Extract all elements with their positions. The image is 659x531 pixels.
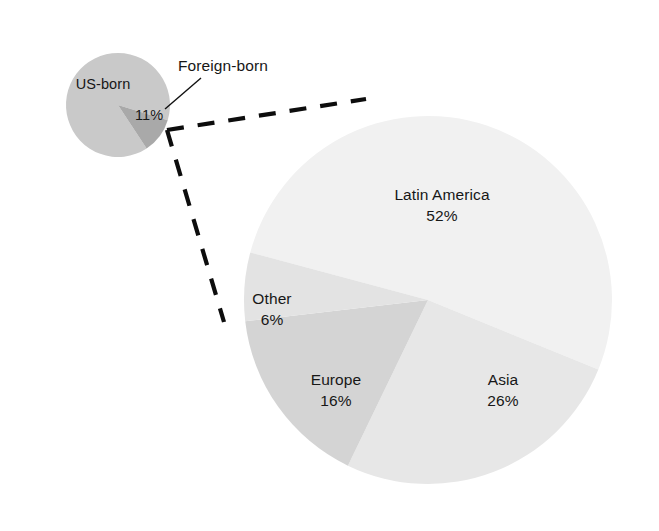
large-pie-label-latin-america: Latin America (394, 186, 489, 203)
large-pie-label-asia: Asia (488, 371, 519, 388)
large-pie-value-other: 6% (261, 311, 284, 328)
chart-canvas: US-born 11% Foreign-born (0, 0, 659, 531)
small-pie-value-foreign-born: 11% (135, 107, 163, 123)
foreign-born-callout: Foreign-born (165, 57, 268, 109)
connector-dash-lower (167, 130, 224, 322)
small-pie-group: US-born 11% (66, 53, 170, 157)
callout-leader-line (165, 78, 201, 109)
large-pie-value-asia: 26% (487, 392, 518, 409)
large-pie-value-europe: 16% (320, 392, 351, 409)
large-pie-value-latin-america: 52% (426, 207, 457, 224)
large-pie-label-europe: Europe (311, 371, 362, 388)
pie-chart-figure: US-born 11% Foreign-born (0, 0, 659, 531)
large-pie-group: Latin America 52% Asia 26% Europe 16% Ot… (244, 116, 612, 484)
small-pie-label-us-born: US-born (76, 76, 131, 92)
callout-label-foreign-born: Foreign-born (178, 57, 268, 74)
connector-dash-upper (167, 99, 366, 130)
large-pie-label-other: Other (252, 290, 291, 307)
